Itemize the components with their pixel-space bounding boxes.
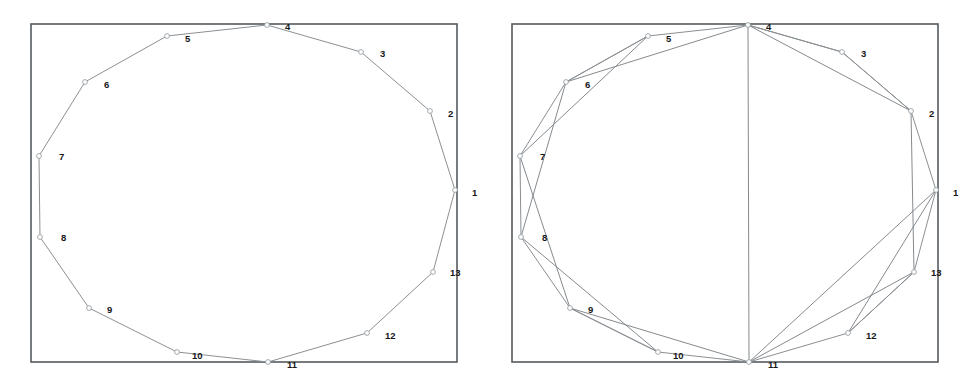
cycle-edge-12-13 — [367, 272, 433, 333]
right-polygon-svg: 12345678910111213 — [488, 0, 977, 385]
chord-edge-8-10 — [521, 237, 658, 352]
chord-edge-1-12 — [848, 190, 936, 333]
vertex-label-9: 9 — [588, 304, 593, 315]
vertex-marker-8[interactable] — [38, 235, 43, 240]
cycle-edge-4-5 — [167, 25, 267, 36]
vertex-marker-13[interactable] — [912, 270, 917, 275]
vertex-label-5: 5 — [185, 33, 191, 44]
vertex-marker-11[interactable] — [266, 360, 271, 365]
cycle-edge-11-12 — [268, 333, 367, 362]
cycle-edge-1-2 — [430, 111, 455, 190]
chord-edge-4-2 — [748, 25, 911, 111]
vertex-label-6: 6 — [104, 79, 109, 90]
cycle-edge-11-12 — [749, 333, 848, 362]
chord-edge-group — [520, 25, 936, 362]
vertex-marker-11[interactable] — [747, 360, 752, 365]
vertex-marker-4[interactable] — [265, 23, 270, 28]
vertex-marker-6[interactable] — [564, 80, 569, 85]
cycle-edge-2-3 — [361, 52, 430, 111]
vertex-marker-3[interactable] — [840, 50, 845, 55]
vertex-group: 12345678910111213 — [37, 21, 478, 370]
vertex-marker-9[interactable] — [87, 306, 92, 311]
vertex-marker-10[interactable] — [175, 350, 180, 355]
vertex-label-12: 12 — [866, 330, 877, 341]
vertex-label-4: 4 — [766, 21, 772, 32]
cycle-edge-13-1 — [914, 190, 936, 272]
vertex-marker-12[interactable] — [365, 331, 370, 336]
vertex-label-8: 8 — [542, 232, 547, 243]
figure-root: 12345678910111213 12345678910111213 — [0, 0, 977, 385]
cycle-edge-7-8 — [520, 156, 521, 237]
vertex-label-3: 3 — [861, 48, 866, 59]
cycle-edge-6-7 — [39, 82, 85, 156]
vertex-label-3: 3 — [380, 48, 385, 59]
vertex-marker-10[interactable] — [656, 350, 661, 355]
cycle-edge-1-2 — [911, 111, 936, 190]
cycle-edge-7-8 — [39, 156, 40, 237]
cycle-edge-2-3 — [842, 52, 911, 111]
vertex-label-9: 9 — [107, 304, 112, 315]
vertex-marker-2[interactable] — [909, 109, 914, 114]
cycle-edge-13-1 — [433, 190, 455, 272]
vertex-marker-8[interactable] — [519, 235, 524, 240]
vertex-marker-9[interactable] — [568, 306, 573, 311]
vertex-label-8: 8 — [61, 232, 66, 243]
vertex-marker-5[interactable] — [165, 34, 170, 39]
vertex-label-11: 11 — [287, 359, 298, 370]
vertex-group: 12345678910111213 — [518, 21, 959, 370]
vertex-marker-7[interactable] — [518, 154, 523, 159]
chord-edge-2-13 — [911, 111, 914, 272]
right-polygon-panel: 12345678910111213 — [488, 0, 977, 385]
chord-edge-7-5 — [520, 36, 648, 156]
left-polygon-panel: 12345678910111213 — [0, 0, 489, 385]
vertex-marker-12[interactable] — [846, 331, 851, 336]
vertex-label-1: 1 — [953, 187, 959, 198]
vertex-marker-5[interactable] — [646, 34, 651, 39]
vertex-label-2: 2 — [448, 108, 453, 119]
vertex-marker-2[interactable] — [428, 109, 433, 114]
cycle-edge-4-5 — [648, 25, 748, 36]
cycle-edge-group — [39, 25, 455, 362]
cycle-edge-10-11 — [177, 352, 268, 362]
cycle-edge-5-6 — [566, 36, 648, 82]
left-polygon-svg: 12345678910111213 — [0, 0, 489, 385]
cycle-edge-9-10 — [89, 308, 177, 352]
vertex-label-1: 1 — [472, 187, 478, 198]
vertex-marker-3[interactable] — [359, 50, 364, 55]
chord-edge-4-6 — [566, 25, 748, 82]
cycle-edge-3-4 — [748, 25, 842, 52]
vertex-marker-1[interactable] — [934, 188, 939, 193]
vertex-label-6: 6 — [585, 79, 590, 90]
vertex-label-13: 13 — [931, 267, 942, 278]
vertex-marker-4[interactable] — [746, 23, 751, 28]
vertex-label-7: 7 — [59, 151, 64, 162]
vertex-marker-1[interactable] — [453, 188, 458, 193]
vertex-label-2: 2 — [929, 108, 934, 119]
vertex-label-13: 13 — [450, 267, 461, 278]
cycle-edge-10-11 — [658, 352, 749, 362]
cycle-edge-8-9 — [40, 237, 89, 308]
chord-edge-11-1 — [749, 190, 936, 362]
cycle-edge-5-6 — [85, 36, 167, 82]
vertex-label-4: 4 — [285, 21, 291, 32]
vertex-label-10: 10 — [192, 350, 203, 361]
vertex-marker-13[interactable] — [431, 270, 436, 275]
vertex-label-7: 7 — [540, 151, 545, 162]
vertex-label-5: 5 — [666, 33, 672, 44]
chord-edge-4-11 — [748, 25, 749, 362]
vertex-marker-6[interactable] — [83, 80, 88, 85]
cycle-edge-3-4 — [267, 25, 361, 52]
vertex-marker-7[interactable] — [37, 154, 42, 159]
vertex-label-12: 12 — [385, 330, 396, 341]
vertex-label-11: 11 — [768, 359, 779, 370]
vertex-label-10: 10 — [673, 350, 684, 361]
